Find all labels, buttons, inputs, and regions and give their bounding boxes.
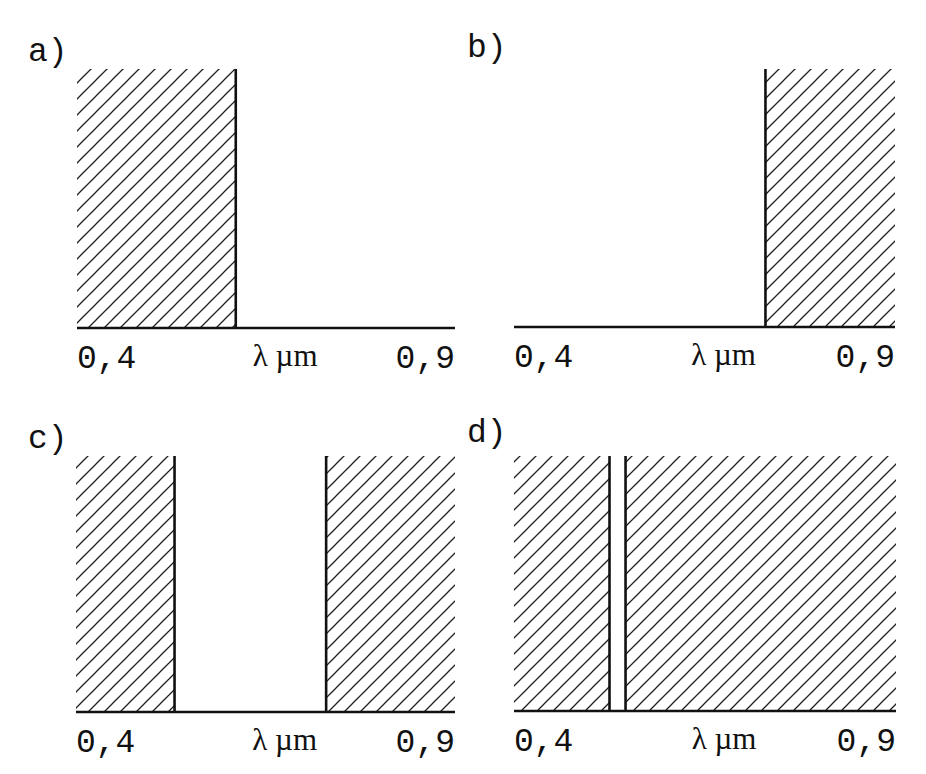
panel-d: d)0,40,9λ µm	[467, 415, 896, 761]
tick-label-max: 0,9	[836, 340, 895, 377]
x-axis-label: λ µm	[252, 722, 317, 757]
hatched-band	[77, 69, 236, 328]
tick-label-min: 0,4	[514, 340, 573, 377]
tick-label-min: 0,4	[514, 724, 573, 761]
hatched-band	[626, 456, 896, 711]
figure: a)0,40,9λ µmb)0,40,9λ µmc)0,40,9λ µmd)0,…	[0, 0, 926, 774]
tick-label-max: 0,9	[396, 341, 455, 378]
tick-label-max: 0,9	[837, 724, 896, 761]
x-axis-label: λ µm	[253, 338, 318, 373]
panel-a: a)0,40,9λ µm	[28, 34, 455, 378]
panel-b: b)0,40,9λ µm	[467, 30, 895, 377]
hatched-band	[76, 456, 175, 712]
panel-label: c)	[28, 421, 68, 458]
tick-label-max: 0,9	[396, 725, 455, 762]
panel-label: a)	[28, 34, 68, 71]
panel-label: b)	[467, 30, 507, 67]
panel-label: d)	[467, 415, 507, 452]
hatched-band	[765, 69, 895, 327]
tick-label-min: 0,4	[76, 725, 135, 762]
tick-label-min: 0,4	[77, 341, 136, 378]
hatched-band	[326, 456, 455, 712]
x-axis-label: λ µm	[691, 337, 756, 372]
hatched-band	[514, 456, 610, 711]
x-axis-label: λ µm	[692, 721, 757, 756]
panel-c: c)0,40,9λ µm	[28, 421, 455, 762]
